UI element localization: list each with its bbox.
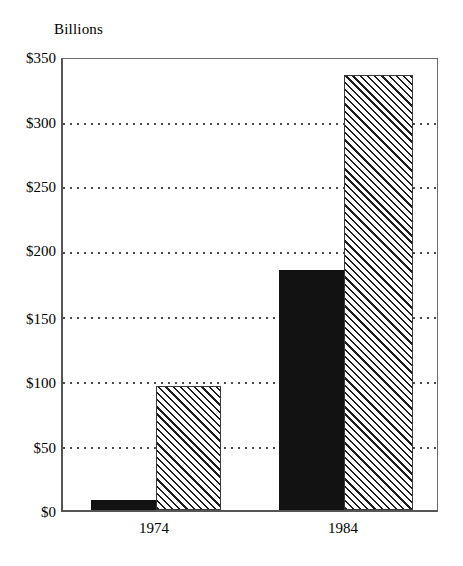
y-axis-tick-labels: $350 $300 $250 $200 $150 $100 $50 $0 <box>0 0 56 566</box>
x-tick-label-1984: 1984 <box>273 519 413 537</box>
bar-chart: Billions $350 $300 $250 $200 $150 $100 $… <box>0 0 463 566</box>
bar-1984-hatched <box>344 75 413 510</box>
y-tick-label-350: $350 <box>26 51 56 66</box>
bars-layer <box>63 59 437 510</box>
y-tick-label-150: $150 <box>26 312 56 327</box>
y-tick-label-200: $200 <box>26 244 56 259</box>
y-tick-label-0: $0 <box>41 505 56 520</box>
bar-1974-solid <box>91 500 156 510</box>
y-tick-label-300: $300 <box>26 116 56 131</box>
y-tick-label-250: $250 <box>26 180 56 195</box>
bar-1974-hatched <box>156 386 221 510</box>
y-tick-label-50: $50 <box>34 441 57 456</box>
plot-area <box>61 58 438 512</box>
y-tick-label-100: $100 <box>26 376 56 391</box>
bar-1984-solid <box>279 270 344 510</box>
x-tick-label-1974: 1974 <box>84 519 224 537</box>
y-axis-unit-caption: Billions <box>54 20 103 38</box>
